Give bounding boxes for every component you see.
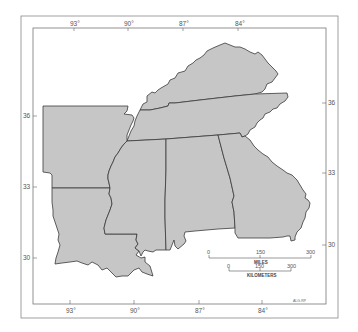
bottom-longitude-label: 93°	[66, 307, 76, 314]
bottom-longitude-label: 87°	[195, 307, 205, 314]
scale-km-label: KILOMETERS	[247, 273, 277, 278]
scale-miles-tick: 150	[256, 249, 265, 255]
bottom-longitude-label: 90°	[130, 307, 140, 314]
left-latitude-label: 33	[23, 183, 31, 190]
top-longitude-label: 87°	[179, 20, 189, 27]
scale-km-tick: 0	[227, 263, 230, 269]
right-latitude-label: 36	[328, 99, 336, 106]
left-latitude-label: 30	[23, 254, 31, 261]
right-latitude-label: 30	[328, 241, 336, 248]
scale-bar-miles	[209, 255, 311, 258]
top-longitude-ticks	[74, 28, 238, 31]
right-latitude-label: 33	[328, 169, 336, 176]
scale-miles-tick: 300	[306, 249, 315, 255]
top-longitude-label: 93°	[70, 20, 80, 27]
top-longitude-label: 84°	[235, 20, 245, 27]
map-credit: ALG-RP	[293, 299, 307, 303]
scale-km-tick: 150	[255, 263, 264, 269]
top-longitude-label: 90°	[124, 20, 134, 27]
scale-miles-tick: 0	[207, 249, 210, 255]
right-latitude-ticks	[322, 103, 326, 245]
scale-bar: 0 150 300 MILES 0 150 300 KILOMETERS	[207, 249, 315, 278]
bottom-longitude-ticks	[70, 300, 262, 304]
map-canvas: 93° 90° 87° 84° 93° 90° 87° 84° 36 33 30…	[0, 0, 358, 332]
left-latitude-ticks	[33, 116, 37, 258]
left-latitude-label: 36	[23, 112, 31, 119]
bottom-longitude-label: 84°	[258, 307, 268, 314]
states	[43, 43, 310, 277]
scale-km-tick: 300	[287, 263, 296, 269]
